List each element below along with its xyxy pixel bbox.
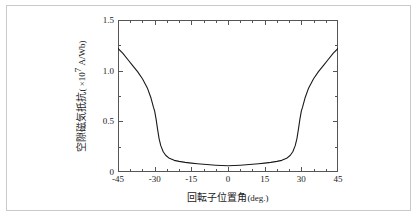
x-axis-title-unit: (deg.)	[247, 193, 268, 203]
x-tick-label: 30	[297, 175, 306, 184]
plot-area	[118, 20, 338, 172]
x-tick-label: 45	[334, 175, 343, 184]
x-axis-title-text: 回転子位置角	[187, 192, 247, 203]
x-tick-label: 15	[260, 175, 269, 184]
x-tick-label: -15	[185, 175, 197, 184]
x-axis-title: 回転子位置角(deg.)	[118, 189, 338, 204]
x-tick-label: 0	[226, 175, 231, 184]
y-axis-unit-open: ( ×10	[77, 72, 87, 91]
y-tick-label: 0	[80, 168, 114, 177]
figure-root: -45-30-150153045 00.51.01.5 回転子位置角(deg.)…	[0, 0, 417, 216]
y-axis-unit-exponent: 7	[73, 68, 83, 73]
x-tick-label: -30	[149, 175, 161, 184]
y-axis-unit-close: A/Wb)	[77, 40, 87, 67]
y-tick-label: 1.5	[80, 16, 114, 25]
y-axis-title-wrap: 空隙磁気抵抗( ×107 A/Wb)	[0, 0, 14, 216]
data-series-line	[118, 48, 338, 165]
plot-frame	[119, 21, 338, 172]
plot-svg	[118, 20, 338, 172]
y-axis-title-text: 空隙磁気抵抗	[76, 92, 87, 152]
y-axis-title: 空隙磁気抵抗( ×107 A/Wb)	[77, 40, 87, 151]
axis-ticks-group	[118, 20, 338, 172]
